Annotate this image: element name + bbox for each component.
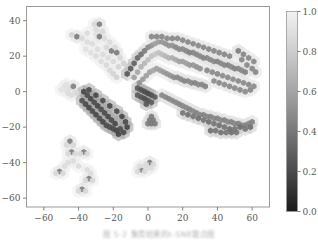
colorbar-tick-label: 0.2	[303, 167, 317, 177]
colorbar-ticks: 0.00.20.40.60.81.0	[298, 7, 318, 217]
x-tick-label: 0	[145, 213, 151, 223]
x-tick-label: −40	[69, 213, 88, 223]
y-tick-label: 40	[9, 16, 21, 26]
tsne-scatter-plot: −60−40−200204060 −60−40−2002040 0.00.20.…	[0, 0, 318, 243]
colorbar-tick-label: 0.4	[303, 127, 318, 137]
figure-caption: 图 5-2 聚类结果的t-SNE散点图	[0, 228, 318, 242]
colorbar-tick-label: 0.8	[303, 47, 318, 57]
y-tick-label: −20	[2, 122, 21, 132]
figure-canvas: −60−40−200204060 −60−40−2002040 0.00.20.…	[0, 0, 318, 243]
x-tick-label: 20	[177, 213, 189, 223]
x-tick-label: 40	[212, 213, 224, 223]
y-axis-ticks: −60−40−2002040	[2, 16, 27, 203]
colorbar-tick-label: 1.0	[303, 7, 318, 17]
x-axis-ticks: −60−40−200204060	[34, 207, 258, 223]
x-tick-label: −60	[34, 213, 53, 223]
x-tick-label: −20	[104, 213, 123, 223]
colorbar-tick-label: 0.0	[303, 207, 318, 217]
colorbar-gradient	[287, 12, 298, 212]
y-tick-label: −40	[2, 158, 21, 168]
colorbar-tick-label: 0.6	[303, 87, 318, 97]
colorbar: 0.00.20.40.60.81.0	[287, 7, 318, 217]
y-tick-label: −60	[2, 193, 21, 203]
y-tick-label: 0	[15, 87, 21, 97]
y-tick-label: 20	[9, 51, 21, 61]
x-tick-label: 60	[246, 213, 258, 223]
